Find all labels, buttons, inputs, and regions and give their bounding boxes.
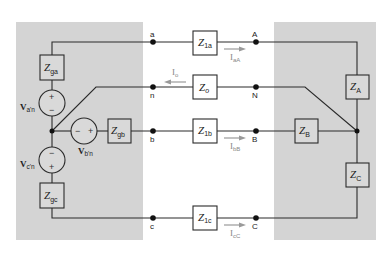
svg-text:N: N [252,91,258,100]
svg-text:−: − [49,148,54,158]
impedance-za: ZA [346,75,369,99]
impedance-zo: Zo [193,75,217,99]
current-arrow-ibB: IbB [224,136,246,153]
svg-text:a: a [150,30,155,39]
svg-text:b: b [150,135,155,144]
svg-text:B: B [252,135,257,144]
three-phase-circuit-diagram: Zga Zgb Zgc + − Va'n − + Vb'n − + Vc'n Z… [0,0,392,254]
impedance-zgb: Zgb [108,119,131,143]
svg-text:C: C [252,222,258,231]
svg-text:IaA: IaA [230,52,240,63]
impedance-zga: Zga [40,55,64,80]
impedance-z1a: Z1a [193,31,217,55]
source-neutral-junction [50,129,55,134]
impedance-zb: ZB [295,119,318,143]
svg-text:+: + [49,92,54,102]
current-arrow-io: Io [164,67,186,85]
current-arrow-icC: IcC [224,223,246,240]
svg-text:c: c [150,222,154,231]
svg-text:IcC: IcC [230,228,241,239]
node-c: c [150,215,156,231]
svg-text:−: − [75,126,80,136]
node-a: a [150,30,156,45]
svg-text:IbB: IbB [230,141,240,152]
impedance-zgc: Zgc [40,183,64,208]
node-A: A [252,30,259,45]
node-b: b [150,128,156,144]
impedance-z1c: Z1c [193,206,217,230]
impedance-z1b: Z1b [193,119,217,143]
svg-text:Io: Io [172,67,179,78]
svg-text:n: n [150,91,154,100]
impedance-zc: ZC [346,163,369,187]
svg-text:A: A [252,30,258,39]
svg-text:+: + [88,126,93,136]
svg-text:−: − [49,105,54,115]
svg-text:+: + [49,162,54,172]
node-n: n [150,84,156,100]
load-neutral-junction [355,129,360,134]
current-arrow-iaA: IaA [224,47,246,64]
